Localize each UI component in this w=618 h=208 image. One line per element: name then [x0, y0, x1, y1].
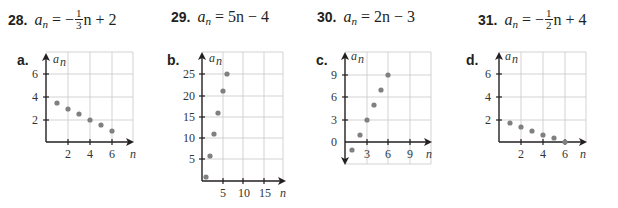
grid	[202, 52, 283, 181]
y-tick: 6	[331, 90, 337, 104]
data-points	[349, 72, 390, 152]
x-tick: 3	[364, 147, 370, 161]
graph-b: 5 10 15 5 10 15 20 25 n a n	[183, 51, 286, 200]
x-tick: 2	[518, 147, 524, 161]
x-tick: 15	[259, 186, 271, 200]
x-axis-label: n	[580, 147, 586, 161]
x-tick: 6	[109, 147, 115, 161]
y-axis-label-sub: n	[60, 55, 66, 69]
y-axis-label: a	[505, 49, 511, 63]
data-points	[203, 71, 229, 179]
graph-d: 2 4 6 2 4 6 n a n	[485, 49, 586, 161]
x-tick: 6	[562, 147, 568, 161]
y-axis-label: a	[209, 51, 215, 65]
x-tick: 9	[407, 147, 413, 161]
y-axis-label-sub: n	[512, 52, 518, 66]
y-tick: 20	[183, 89, 195, 103]
x-axis-label: n	[426, 147, 432, 161]
x-tick: 4	[87, 147, 93, 161]
y-tick: 6	[32, 67, 38, 81]
y-tick: 5	[189, 152, 195, 166]
data-points	[507, 120, 567, 144]
y-tick: 2	[32, 113, 38, 127]
x-tick: 2	[65, 147, 71, 161]
graphs-canvas: 2 4 6 2 4 6 n a n 5 10 15 5	[0, 0, 618, 208]
x-tick: 10	[238, 186, 250, 200]
y-tick: 3	[331, 113, 337, 127]
y-tick: 6	[485, 67, 491, 81]
y-tick: 9	[331, 68, 337, 82]
y-tick: 0	[331, 135, 337, 149]
y-tick: 15	[183, 110, 195, 124]
y-axis-label-sub: n	[216, 54, 222, 68]
y-axis-label-sub: n	[358, 52, 364, 66]
graph-c: 3 6 9 0 3 6 9 n a n	[331, 49, 432, 164]
x-tick: 5	[220, 186, 226, 200]
data-points	[54, 100, 114, 133]
x-tick: 4	[540, 147, 546, 161]
y-axis-label: a	[53, 52, 59, 66]
x-tick: 6	[385, 147, 391, 161]
x-axis-label: n	[130, 147, 136, 161]
y-tick: 10	[183, 131, 195, 145]
graph-a: 2 4 6 2 4 6 n a n	[32, 52, 136, 161]
y-tick: 4	[485, 90, 491, 104]
y-tick: 2	[485, 113, 491, 127]
y-axis-label: a	[351, 49, 357, 63]
x-axis-label: n	[280, 186, 286, 200]
y-tick: 4	[32, 90, 38, 104]
y-tick: 25	[183, 67, 195, 81]
